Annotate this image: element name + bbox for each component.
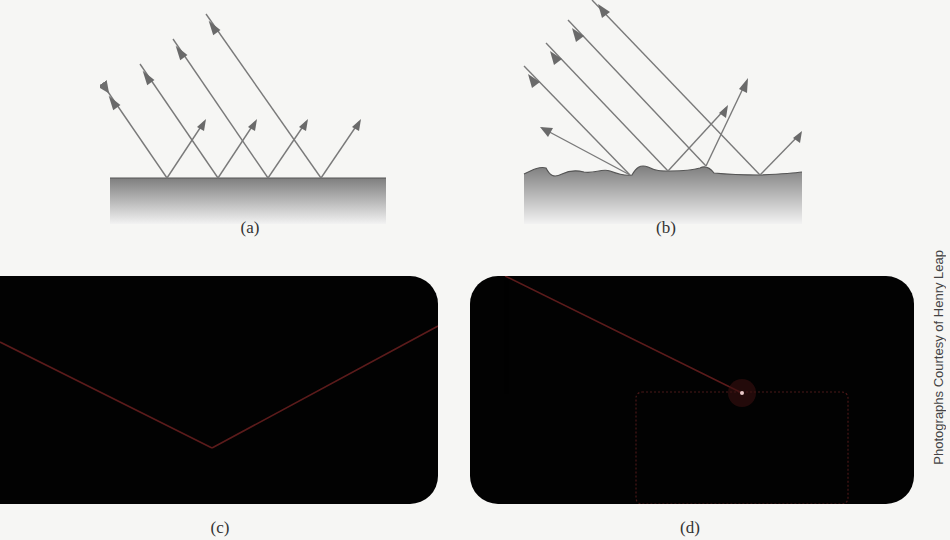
panel-a-specular-diagram: (a) (100, 0, 400, 240)
panel-d-photo-diffuse (470, 276, 914, 504)
laser-beam-diffuse (470, 276, 914, 504)
rough-surface-block (636, 392, 848, 504)
photo-credit: Photographs Courtesy of Henry Leap (931, 250, 946, 465)
specular-reflection-diagram (100, 0, 400, 240)
panel-a-label: (a) (230, 218, 270, 238)
panel-c-photo-specular (0, 276, 438, 504)
panel-b-diffuse-diagram: (b) (510, 0, 820, 240)
diffuse-reflection-diagram (510, 0, 820, 240)
panel-b-label: (b) (646, 218, 686, 238)
panel-d-label: (d) (670, 518, 710, 538)
laser-beam-specular (0, 276, 438, 504)
panel-c-label: (c) (200, 518, 240, 538)
